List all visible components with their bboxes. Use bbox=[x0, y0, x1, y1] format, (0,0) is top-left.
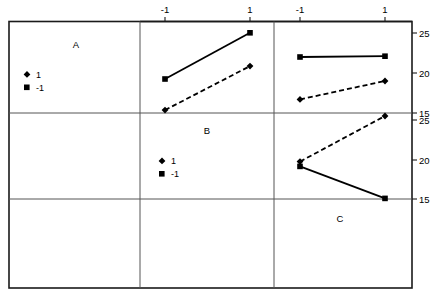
panel-a-legend-label-minus1: -1 bbox=[36, 83, 44, 93]
panel-b-label: B bbox=[204, 125, 210, 136]
canvas-background bbox=[0, 0, 432, 294]
top-tick-label-col2-plus1: 1 bbox=[247, 4, 252, 15]
square-marker bbox=[297, 54, 303, 60]
top-tick-label-col3-plus1: 1 bbox=[382, 4, 387, 15]
top-tick-label-col2-minus1: -1 bbox=[161, 4, 169, 15]
square-marker bbox=[159, 171, 165, 177]
square-marker bbox=[297, 164, 303, 170]
square-marker bbox=[247, 30, 253, 36]
right-tick-label-row1-20: 20 bbox=[419, 68, 430, 79]
right-tick-label-row2-25: 25 bbox=[419, 115, 430, 126]
panel-b-legend-label-minus1: -1 bbox=[171, 169, 179, 179]
panel-c-label: C bbox=[337, 213, 344, 224]
right-tick-label-row1-25: 25 bbox=[419, 28, 430, 39]
series-line-minus1-solid bbox=[300, 56, 385, 57]
panel-c: C bbox=[337, 213, 344, 224]
panel-a-legend-label-1: 1 bbox=[36, 70, 41, 80]
plot-svg: -1 1 -1 1 25 20 15 25 20 15 bbox=[0, 0, 432, 294]
square-marker bbox=[24, 85, 30, 91]
top-tick-label-col3-minus1: -1 bbox=[296, 4, 304, 15]
square-marker bbox=[382, 53, 388, 59]
panel-a-label: A bbox=[73, 39, 80, 50]
square-marker bbox=[162, 76, 168, 82]
right-tick-label-row2-20: 20 bbox=[419, 155, 430, 166]
right-tick-label-row2-15: 15 bbox=[419, 194, 430, 205]
square-marker bbox=[382, 196, 388, 202]
interaction-plot-matrix: -1 1 -1 1 25 20 15 25 20 15 bbox=[0, 0, 432, 294]
panel-b-legend-label-1: 1 bbox=[171, 156, 176, 166]
